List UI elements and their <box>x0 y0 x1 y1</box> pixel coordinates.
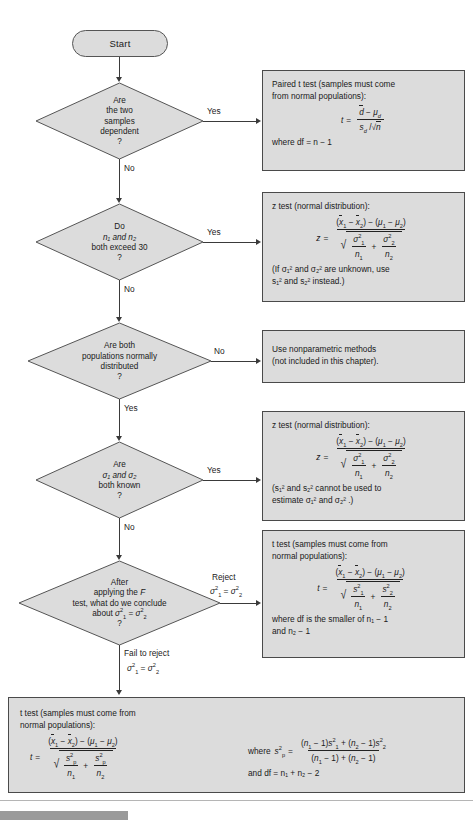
nonparametric-line-1: Use nonparametric methods <box>272 343 455 355</box>
pooled-equals: = <box>35 751 40 763</box>
panel-t-test-pooled: t test (samples must come from normal po… <box>8 697 465 793</box>
edge-label-sample-size-no: No <box>124 284 135 295</box>
t-unequal-heading-line-1: t test (samples must come from <box>272 538 455 550</box>
panel-paired-t-test: Paired t test (samples must come from no… <box>262 70 465 171</box>
paired-t-formula: t = d − μd sd /√n <box>272 106 455 133</box>
z-large-formula: z = (x1 − x2) − (μ1 − μ2) √ σ21n1 + σ22n… <box>272 216 455 260</box>
pooled-left-column: t test (samples must come from normal po… <box>20 707 230 782</box>
t-unequal-equals: = <box>323 582 328 594</box>
t-unequal-numerator: (x1 − x2) − (μ1 − μ2) <box>332 566 407 579</box>
z-sigma-numerator: (x1 − x2) − (μ1 − μ2) <box>333 435 408 448</box>
diamond-shape-f-test <box>19 561 220 645</box>
decision-normality: Are both populations normally distribute… <box>28 323 211 399</box>
edge-label-normality-yes: Yes <box>124 403 138 414</box>
paired-t-heading-line-1: Paired t test (samples must come <box>272 78 455 90</box>
pooled-lhs: t <box>30 751 32 763</box>
z-large-note-line-2: s₁² and s₂² instead.) <box>272 275 455 287</box>
diamond-shape-normality <box>28 323 211 399</box>
nonparametric-line-2: (not included in this chapter). <box>272 355 455 367</box>
connector-normality-no <box>211 361 257 362</box>
arrowhead-down-normality <box>116 317 122 322</box>
paired-t-footer: where df = n − 1 <box>272 136 455 148</box>
decision-sigma-known: Are σ₁ and σ₂ both known ? <box>36 442 203 518</box>
diamond-shape-dependent <box>36 83 203 159</box>
t-unequal-denominator: √ s21n1 + s22n2 <box>337 579 403 610</box>
connector-dependent-yes <box>203 121 257 122</box>
connector-normality-yes <box>119 399 120 437</box>
arrowhead-down-sample-size <box>116 198 122 203</box>
z-large-equals: = <box>323 232 328 244</box>
edge-label-sample-size-yes: Yes <box>207 227 221 238</box>
decision-sample-size: Do n₁ and n₂ both exceed 30 ? <box>36 204 203 280</box>
edge-label-f-test-fail: Fail to reject <box>124 648 169 659</box>
pooled-sp-equals: = <box>288 745 293 757</box>
pooled-sp-fraction: (n1 − 1)s21 + (n2 − 1)s22 (n1 − 1) + (n2… <box>298 737 389 764</box>
z-large-denominator: √ σ21n1 + σ22n2 <box>337 229 404 260</box>
paired-t-denominator: sd /√n <box>357 119 384 133</box>
t-unequal-heading-line-2: normal populations): <box>272 550 455 562</box>
edge-label-sigma-known-yes: Yes <box>207 465 221 476</box>
footer-rule <box>0 800 473 801</box>
pooled-df-line: and df = n₁ + n₂ − 2 <box>248 767 453 779</box>
diamond-shape-sigma-known <box>36 442 203 518</box>
connector-f-test-fail <box>119 645 120 691</box>
arrowhead-right-t-test-unequal <box>256 600 261 606</box>
z-large-note-line-1: (If σ₁² and σ₂² are unknown, use <box>272 263 455 275</box>
paired-t-lhs: t <box>341 114 343 126</box>
z-large-numerator: (x1 − x2) − (μ1 − μ2) <box>333 216 408 229</box>
arrowhead-down-t-test-pooled <box>116 690 122 695</box>
t-unequal-footer-line-2: and n₂ − 1 <box>272 625 455 637</box>
connector-f-test-reject <box>220 603 257 604</box>
t-unequal-formula: t = (x1 − x2) − (μ1 − μ2) √ s21n1 + s22n… <box>272 566 455 610</box>
pooled-right-column: where s2p = (n1 − 1)s21 + (n2 − 1)s22 (n… <box>248 707 453 779</box>
arrowhead-down-sigma-known <box>116 436 122 441</box>
connector-sigma-known-yes <box>203 480 257 481</box>
pooled-denominator: √ s2pn1 + s2pn2 <box>50 748 116 779</box>
pooled-numerator: (x1 − x2) − (μ1 − μ2) <box>45 735 120 748</box>
edge-label-dependent-yes: Yes <box>207 106 221 117</box>
z-sigma-fraction: (x1 − x2) − (μ1 − μ2) √ σ21n1 + σ22n2 <box>333 435 408 479</box>
paired-t-equals: = <box>346 114 351 126</box>
arrowhead-right-z-test-large <box>256 239 261 245</box>
flowchart-canvas: Start Are the two samples dependent ? Ye… <box>0 0 473 822</box>
pooled-fraction: (x1 − x2) − (μ1 − μ2) √ s2pn1 + s2pn2 <box>45 735 120 779</box>
z-large-heading: z test (normal distribution): <box>272 200 455 212</box>
panel-t-test-unequal-variances: t test (samples must come from normal po… <box>262 530 465 658</box>
edge-label-f-test-reject-condition: σ21 = σ22 <box>210 586 242 597</box>
connector-sample-size-no <box>119 280 120 318</box>
decision-dependent: Are the two samples dependent ? <box>36 83 203 159</box>
z-sigma-formula: z = (x1 − x2) − (μ1 − μ2) √ σ21n1 + σ22n… <box>272 435 455 479</box>
z-sigma-lhs: z <box>316 451 320 463</box>
start-terminator: Start <box>72 30 168 57</box>
paired-t-numerator: d − μd <box>356 106 384 119</box>
edge-label-f-test-fail-condition: σ21 = σ22 <box>127 663 159 674</box>
edge-label-normality-no: No <box>214 346 225 357</box>
decision-f-test: After applying the F test, what do we co… <box>19 561 220 645</box>
pooled-formula: t = (x1 − x2) − (μ1 − μ2) √ s2pn1 + s2pn… <box>20 735 230 779</box>
pooled-sp-definition: where s2p = (n1 − 1)s21 + (n2 − 1)s22 (n… <box>248 737 453 764</box>
panel-nonparametric-methods: Use nonparametric methods (not included … <box>262 330 465 383</box>
panel-z-test-sigma-known: z test (normal distribution): z = (x1 − … <box>262 411 465 521</box>
z-sigma-note-line-1: (s₁² and s₂² cannot be used to <box>272 482 455 494</box>
arrowhead-right-z-test-sigma <box>256 477 261 483</box>
t-unequal-footer-line-1: where df is the smaller of n₁ − 1 <box>272 613 455 625</box>
pooled-where-label: where <box>248 745 271 757</box>
pooled-sp-denominator: (n1 − 1) + (n2 − 1) <box>308 750 378 764</box>
z-sigma-note-line-2: estimate σ₁² and σ₂² .) <box>272 494 455 506</box>
pooled-heading-line-2: normal populations): <box>20 719 230 731</box>
z-sigma-denominator: √ σ21n1 + σ22n2 <box>337 448 404 479</box>
z-sigma-heading: z test (normal distribution): <box>272 419 455 431</box>
panel-z-test-large-samples: z test (normal distribution): z = (x1 − … <box>262 192 465 302</box>
start-label: Start <box>109 38 130 49</box>
edge-label-dependent-no: No <box>124 163 135 174</box>
edge-label-sigma-known-no: No <box>124 522 135 533</box>
diamond-shape-sample-size <box>36 204 203 280</box>
footer-gray-bar <box>0 811 128 820</box>
connector-start-to-dependent <box>119 57 120 78</box>
pooled-sp-numerator: (n1 − 1)s21 + (n2 − 1)s22 <box>298 737 389 750</box>
t-unequal-fraction: (x1 − x2) − (μ1 − μ2) √ s21n1 + s22n2 <box>332 566 407 610</box>
edge-label-f-test-reject: Reject <box>212 572 236 583</box>
paired-t-heading-line-2: from normal populations): <box>272 90 455 102</box>
z-large-lhs: z <box>316 232 320 244</box>
z-sigma-equals: = <box>323 451 328 463</box>
